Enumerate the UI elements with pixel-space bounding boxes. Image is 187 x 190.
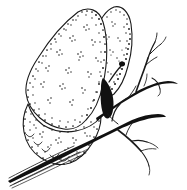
butterfly-on-twig-drawing	[0, 0, 187, 190]
butterfly-illustration: Butterfly resting on a twig	[0, 0, 187, 190]
antenna-club-icon	[119, 62, 125, 67]
